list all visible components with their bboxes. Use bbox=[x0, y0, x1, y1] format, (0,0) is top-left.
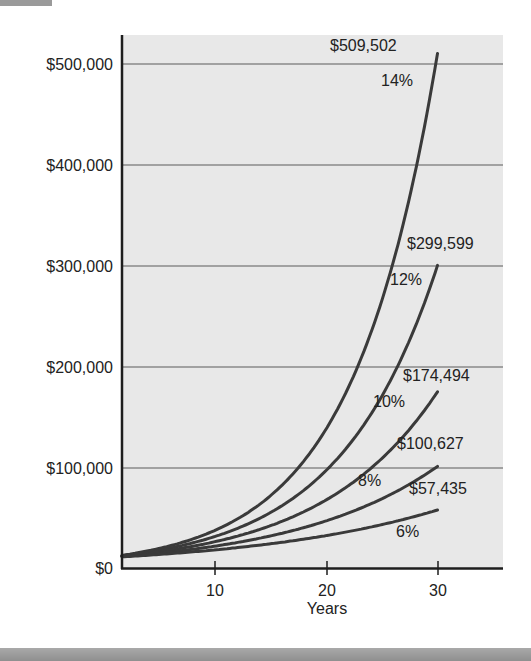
rate-label-12: 12% bbox=[390, 271, 422, 288]
bottom-decoration-band bbox=[0, 648, 531, 661]
y-tick-label: $500,000 bbox=[46, 56, 113, 73]
x-tick-label: 20 bbox=[318, 582, 336, 599]
compound-growth-chart: $0 $100,000 $200,000 $300,000 $400,000 $… bbox=[0, 0, 531, 661]
x-tick-label: 30 bbox=[429, 582, 447, 599]
x-tick-labels: 10 20 30 bbox=[206, 582, 447, 599]
end-value-label-14: $509,502 bbox=[330, 37, 397, 54]
rate-label-10: 10% bbox=[373, 393, 405, 410]
y-tick-labels: $0 $100,000 $200,000 $300,000 $400,000 $… bbox=[46, 56, 113, 577]
y-tick-label: $0 bbox=[95, 560, 113, 577]
y-tick-label: $100,000 bbox=[46, 460, 113, 477]
end-value-label-10: $174,494 bbox=[403, 367, 470, 384]
rate-label-8: 8% bbox=[358, 472, 381, 489]
y-tick-label: $200,000 bbox=[46, 359, 113, 376]
end-value-label-12: $299,599 bbox=[407, 235, 474, 252]
y-tick-label: $400,000 bbox=[46, 157, 113, 174]
end-value-label-6: $57,435 bbox=[409, 480, 467, 497]
rate-label-14: 14% bbox=[381, 72, 413, 89]
x-tick-label: 10 bbox=[206, 582, 224, 599]
x-axis-title: Years bbox=[307, 600, 347, 617]
rate-label-6: 6% bbox=[396, 523, 419, 540]
end-value-label-8: $100,627 bbox=[397, 435, 464, 452]
y-tick-label: $300,000 bbox=[46, 258, 113, 275]
